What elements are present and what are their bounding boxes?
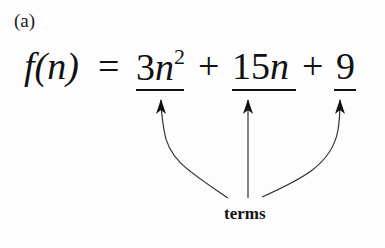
- terms-annotation: terms: [224, 204, 266, 224]
- figure-canvas: (a) f(n) = 3n2 + 15n + 9 terms: [0, 0, 385, 248]
- arrows: [0, 0, 385, 248]
- arrow-term-3: [262, 100, 340, 197]
- arrow-term-1: [161, 100, 228, 198]
